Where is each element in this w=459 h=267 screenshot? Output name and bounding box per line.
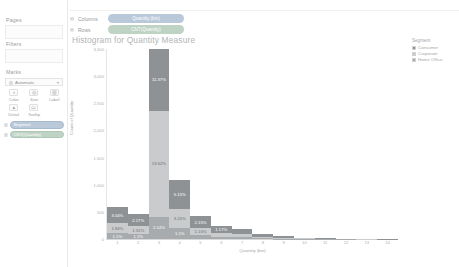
bar-column[interactable]: [273, 49, 294, 239]
bar-column[interactable]: 5.13%3.24%1.1%: [169, 49, 190, 239]
marks-button-color-label: Color: [9, 97, 19, 102]
y-axis-ticks: 05001,0001,5002,0002,5003,0003,500: [79, 49, 105, 239]
bar-segment[interactable]: 3.24%: [169, 209, 190, 227]
bar-column[interactable]: 2.15%1.16%: [190, 49, 211, 239]
bar-segment[interactable]: 2.15%: [190, 216, 211, 228]
plot-area: Count of Quantity 05001,0001,5002,0002,5…: [70, 49, 405, 264]
bar-column[interactable]: [294, 49, 315, 239]
x-axis-tick-label: 1: [107, 240, 128, 245]
filters-drop-target[interactable]: [5, 49, 63, 63]
visualization-area: Histogram for Quantity Measure Count of …: [70, 34, 405, 264]
bar-segment[interactable]: 3.04%: [107, 207, 128, 223]
bar-segment[interactable]: 11.37%: [149, 49, 170, 111]
chart-title: Histogram for Quantity Measure: [70, 34, 405, 47]
bar-segment-label: 1.1%: [133, 234, 143, 239]
marks-pill-row-segment: ▥ Segment: [4, 121, 64, 129]
shelf-container: ▤ Columns Quantity (bin) ▤ Rows CNT(Quan…: [70, 13, 400, 35]
legend-title: Segment: [412, 38, 458, 43]
legend-item-label: Home Office: [418, 57, 442, 62]
bar-segment[interactable]: 1.84%: [107, 223, 128, 233]
bar-segment[interactable]: 1.31%: [128, 226, 149, 234]
bar-segment[interactable]: [252, 238, 273, 239]
marks-button-color[interactable]: ◑ Color: [4, 89, 23, 102]
bar-column[interactable]: [356, 49, 377, 239]
y-axis-tick-label: 0: [102, 237, 104, 242]
bar-column[interactable]: [232, 49, 253, 239]
tooltip-icon: ▭: [29, 104, 38, 111]
marks-button-size-label: Size: [30, 97, 38, 102]
y-axis-tick-label: 2,500: [94, 101, 104, 106]
bar-segment-label: 3.04%: [111, 213, 123, 218]
tableau-worksheet: Pages Filters Marks ▥ Automatic ▾ ◑ Colo…: [0, 0, 459, 267]
pages-drop-target[interactable]: [5, 25, 63, 39]
marks-button-tooltip[interactable]: ▭ Tooltip: [24, 104, 43, 117]
marks-button-label[interactable]: ▥ Label: [45, 89, 64, 102]
marks-button-size[interactable]: ◎ Size: [24, 89, 43, 102]
legend-item[interactable]: Corporate: [412, 51, 458, 56]
color-swatch-icon: ▥: [4, 122, 8, 127]
bar-segment[interactable]: 1.16%: [190, 228, 211, 235]
bar-column[interactable]: 11.37%19.62%2.14%: [149, 49, 170, 239]
bar-segment-label: 2.15%: [195, 220, 207, 225]
bar-series-container: 3.04%1.84%1.1%2.17%1.31%1.1%11.37%19.62%…: [107, 49, 398, 239]
bar-segment[interactable]: 2.14%: [149, 217, 170, 239]
bar-column[interactable]: 3.04%1.84%1.1%: [107, 49, 128, 239]
bar-column[interactable]: [315, 49, 336, 239]
pages-card: Pages: [0, 16, 68, 39]
columns-shelf[interactable]: ▤ Columns Quantity (bin): [70, 13, 400, 24]
x-axis-tick-label: 10: [294, 240, 315, 245]
legend-item[interactable]: Home Office: [412, 57, 458, 62]
bar-segment[interactable]: 5.13%: [169, 180, 190, 209]
rows-shelf-pill[interactable]: CNT(Quantity): [108, 25, 184, 34]
rows-shelf-label: Rows: [78, 27, 104, 33]
marks-button-detail-label: Detail: [8, 112, 19, 117]
marks-type-dropdown[interactable]: ▥ Automatic ▾: [5, 78, 63, 86]
bar-column[interactable]: [377, 49, 398, 239]
bar-segment[interactable]: 1.1%: [128, 234, 149, 239]
bar-segment[interactable]: 19.62%: [149, 111, 170, 217]
label-icon: ▥: [50, 89, 59, 96]
x-axis-tick-label: 3: [149, 240, 170, 245]
bar-column[interactable]: [336, 49, 357, 239]
bar-segment-label: 1.17%: [215, 227, 227, 232]
marks-pills-list: ▥ Segment ▥ CNT(Quantity): [4, 121, 64, 138]
marks-button-detail[interactable]: ▲ Detail: [4, 104, 23, 117]
y-axis-title: Count of Quantity: [69, 101, 74, 135]
bar-segment-label: 2.14%: [153, 225, 165, 230]
bar-segment[interactable]: [190, 235, 211, 239]
bar-segment[interactable]: [211, 237, 232, 239]
x-axis-tick-label: 4: [169, 240, 190, 245]
legend-items: ConsumerCorporateHome Office: [412, 45, 458, 62]
marks-pill-cnt-quantity[interactable]: CNT(Quantity): [10, 131, 65, 139]
label-swatch-icon: ▥: [4, 132, 8, 137]
marks-pill-segment[interactable]: Segment: [10, 121, 65, 129]
bar-segment[interactable]: 2.17%: [128, 214, 149, 226]
x-axis-tick-label: 5: [190, 240, 211, 245]
legend-item[interactable]: Consumer: [412, 45, 458, 50]
legend: Segment ConsumerCorporateHome Office: [412, 38, 458, 64]
bar-column[interactable]: 1.17%: [211, 49, 232, 239]
x-axis-tick-label: 11: [315, 240, 336, 245]
header-divider: [70, 10, 459, 11]
bar-segment[interactable]: [232, 237, 253, 239]
x-axis-tick-label: 2: [128, 240, 149, 245]
y-axis-tick-label: 1,000: [94, 182, 104, 187]
size-icon: ◎: [29, 89, 38, 96]
bar-column[interactable]: 2.17%1.31%1.1%: [128, 49, 149, 239]
bar-segment-label: 1.31%: [132, 228, 144, 233]
bar-segment-label: 11.37%: [152, 77, 166, 82]
bar-segment[interactable]: 1.1%: [107, 233, 128, 239]
y-axis-tick-label: 500: [97, 209, 104, 214]
legend-swatch-icon: [412, 58, 416, 62]
bar-column[interactable]: [252, 49, 273, 239]
columns-shelf-pill[interactable]: Quantity (bin): [108, 14, 184, 23]
bar-segment-label: 3.24%: [174, 216, 186, 221]
bar-segment[interactable]: 1.1%: [169, 228, 190, 240]
legend-item-label: Consumer: [418, 45, 438, 50]
chevron-down-icon[interactable]: ▾: [57, 80, 59, 85]
y-axis-tick-label: 3,500: [94, 47, 104, 52]
bar-segment-label: 5.13%: [174, 192, 186, 197]
marks-button-label-label: Label: [49, 97, 59, 102]
x-axis-ticks: 1234567891011121314: [107, 240, 398, 245]
bar-segment-label: 1.1%: [113, 234, 123, 239]
